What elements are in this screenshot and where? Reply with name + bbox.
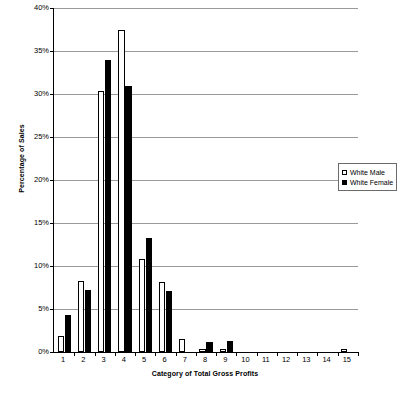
- y-axis-tick-label: 0%: [21, 348, 49, 356]
- x-axis-tick-label: 5: [134, 355, 154, 365]
- y-axis-tick-label: 35%: [21, 47, 49, 55]
- y-axis-tick-label: 25%: [21, 133, 49, 141]
- bar-white-male-cat-6: [159, 282, 165, 352]
- legend-item-white-male: White Male: [341, 167, 393, 177]
- y-axis-tick-labels: 0%5%10%15%20%25%30%35%40%: [19, 0, 49, 393]
- bar-white-female-cat-3: [105, 60, 111, 352]
- x-axis-tick-labels: 123456789101112131415: [53, 355, 357, 367]
- x-axis-tick-label: 3: [94, 355, 114, 365]
- bar-white-male-cat-7: [179, 339, 185, 352]
- gridline: [54, 8, 358, 9]
- y-axis-tick-label: 40%: [21, 4, 49, 12]
- bar-white-male-cat-3: [98, 91, 104, 352]
- y-axis-tick-mark: [50, 51, 54, 52]
- y-axis-tick-mark: [50, 137, 54, 138]
- x-axis-tick-label: 2: [73, 355, 93, 365]
- x-axis-tick-label: 10: [235, 355, 255, 365]
- open-square-icon: [342, 170, 347, 175]
- y-axis-tick-mark: [50, 352, 54, 353]
- x-axis-tick-label: 9: [215, 355, 235, 365]
- legend-item-white-female: White Female: [341, 177, 393, 187]
- bar-white-female-cat-5: [146, 238, 152, 352]
- bar-white-male-cat-15: [341, 349, 347, 352]
- bar-chart: Percentage of Sales 0%5%10%15%20%25%30%3…: [0, 0, 412, 393]
- x-axis-tick-label: 7: [175, 355, 195, 365]
- x-axis-tick-label: 4: [114, 355, 134, 365]
- bar-white-male-cat-9: [220, 349, 226, 352]
- y-axis-tick-label: 15%: [21, 219, 49, 227]
- x-axis-tick-label: 12: [276, 355, 296, 365]
- bar-white-male-cat-1: [58, 336, 64, 352]
- y-axis-tick-mark: [50, 180, 54, 181]
- x-axis-tick-label: 15: [337, 355, 357, 365]
- y-axis-tick-mark: [50, 223, 54, 224]
- x-axis-tick-mark: [358, 352, 359, 356]
- y-axis-tick-label: 10%: [21, 262, 49, 270]
- bar-white-female-cat-8: [206, 342, 212, 352]
- chart-legend: White MaleWhite Female: [338, 163, 397, 191]
- x-axis-tick-label: 13: [296, 355, 316, 365]
- bar-white-male-cat-5: [139, 259, 145, 352]
- x-axis-tick-label: 1: [53, 355, 73, 365]
- y-axis-tick-label: 5%: [21, 305, 49, 313]
- bar-white-female-cat-1: [65, 315, 71, 352]
- x-axis-tick-label: 11: [256, 355, 276, 365]
- x-axis-tick-label: 8: [195, 355, 215, 365]
- gridline: [54, 51, 358, 52]
- plot-area: [53, 8, 358, 353]
- bar-white-female-cat-6: [166, 291, 172, 352]
- bar-white-female-cat-4: [125, 86, 131, 352]
- legend-item-label: White Male: [350, 168, 385, 177]
- bar-white-male-cat-2: [78, 281, 84, 352]
- x-axis-title: Category of Total Gross Profits: [53, 370, 357, 377]
- y-axis-tick-mark: [50, 309, 54, 310]
- y-axis-tick-mark: [50, 8, 54, 9]
- legend-item-label: White Female: [350, 178, 393, 187]
- bar-white-male-cat-4: [118, 30, 124, 353]
- bar-white-female-cat-9: [227, 341, 233, 352]
- y-axis-tick-mark: [50, 266, 54, 267]
- bar-white-male-cat-8: [199, 349, 205, 352]
- y-axis-tick-label: 20%: [21, 176, 49, 184]
- x-axis-tick-label: 6: [154, 355, 174, 365]
- y-axis-tick-mark: [50, 94, 54, 95]
- bar-white-female-cat-2: [85, 290, 91, 352]
- y-axis-tick-label: 30%: [21, 90, 49, 98]
- filled-square-icon: [342, 180, 347, 185]
- x-axis-tick-label: 14: [316, 355, 336, 365]
